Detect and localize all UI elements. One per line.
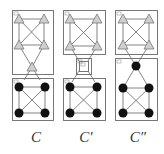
label-c-double-prime: C″ xyxy=(130,129,146,146)
circle-node xyxy=(41,83,50,92)
triangle-node xyxy=(144,14,154,23)
circle-node xyxy=(66,83,75,92)
circle-node xyxy=(93,83,102,92)
graph-edge xyxy=(72,71,79,82)
box-tag xyxy=(117,60,121,63)
label-c-prime: C′ xyxy=(79,129,92,146)
box-tag xyxy=(117,12,121,15)
diagram: C C′ C″ xyxy=(0,0,164,154)
circle-node xyxy=(93,109,102,118)
label-c: C xyxy=(31,129,41,146)
triangle-node xyxy=(65,14,75,23)
box-tag xyxy=(65,80,69,83)
box-tag xyxy=(81,63,85,66)
triangle-node xyxy=(27,62,37,71)
circle-node xyxy=(145,109,154,118)
circle-node xyxy=(119,84,128,93)
circle-node xyxy=(145,84,154,93)
box-tag xyxy=(65,12,69,15)
box-tag xyxy=(14,80,18,83)
triangle-node xyxy=(14,14,24,23)
triangle-node xyxy=(92,14,102,23)
circle-node xyxy=(15,83,24,92)
circle-node xyxy=(119,109,128,118)
circle-node xyxy=(66,109,75,118)
circle-node xyxy=(41,109,50,118)
circle-node xyxy=(132,62,141,71)
box-tag xyxy=(14,12,18,15)
triangle-node xyxy=(39,14,49,23)
triangle-node xyxy=(118,14,128,23)
circle-node xyxy=(15,109,24,118)
